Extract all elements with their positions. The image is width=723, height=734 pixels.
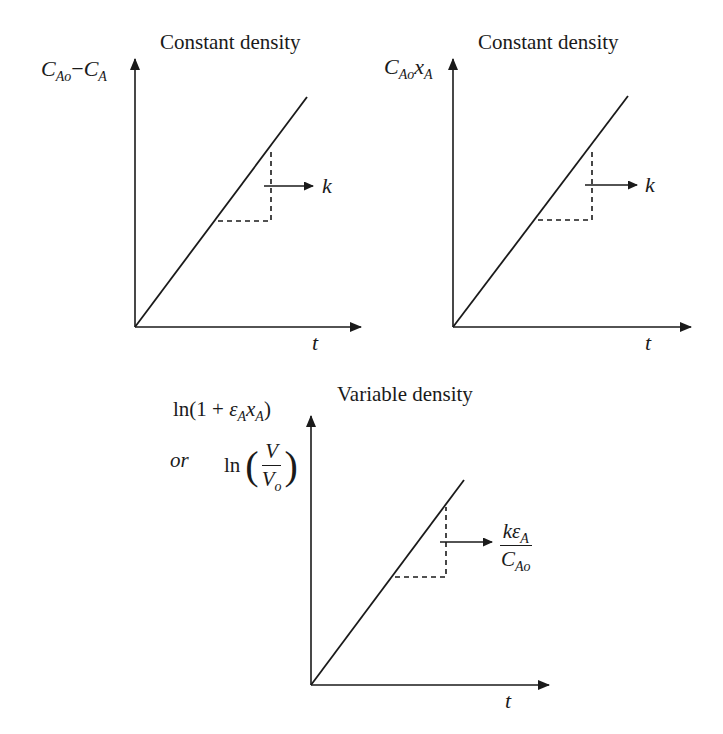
x-axis-label: t xyxy=(505,688,511,714)
slope-triangle xyxy=(218,150,271,221)
fraction-denominator: Vo xyxy=(259,466,285,491)
k-var: k xyxy=(503,519,512,543)
slope-label: k xyxy=(645,172,655,198)
y-axis-label: CAo−CA xyxy=(41,56,107,82)
right-paren: ) xyxy=(285,446,298,486)
ln-prefix: ln(1 + xyxy=(173,397,229,421)
y-label-c: C xyxy=(41,56,56,81)
y-axis-label: CAoxA xyxy=(384,54,433,80)
y-label-x: x xyxy=(414,54,424,79)
y-label-sub: Ao xyxy=(399,67,415,82)
x-sub: A xyxy=(255,409,264,424)
y-label-minus: − xyxy=(71,56,83,81)
panel-title: Variable density xyxy=(337,382,473,407)
panel-title: Constant density xyxy=(478,30,619,55)
y-axis-label-line1: ln(1 + εAxA) xyxy=(173,397,271,422)
volume-ratio: V Vo xyxy=(259,440,285,491)
data-line xyxy=(311,480,464,685)
x-axis-label: t xyxy=(312,330,318,356)
x-axis-label: t xyxy=(645,330,651,356)
y-axis-label-line2: ln ( V Vo ) xyxy=(224,440,298,491)
c-sub: Ao xyxy=(515,559,531,574)
y-label-sub: Ao xyxy=(56,69,72,84)
y-label-sub2: A xyxy=(98,69,107,84)
y-label-c2: C xyxy=(84,56,99,81)
slope-fraction: kεA CAo xyxy=(498,520,534,571)
v-sub: o xyxy=(275,479,282,494)
slope-label: kεA CAo xyxy=(498,520,534,571)
slope-numerator: kεA xyxy=(500,520,532,546)
panel-title: Constant density xyxy=(160,30,301,55)
ln-text: ln xyxy=(224,453,240,478)
fraction-numerator: V xyxy=(262,440,281,466)
v-den: V xyxy=(262,467,275,491)
slope-triangle xyxy=(538,150,592,220)
slope-label: k xyxy=(322,173,332,199)
c-var: C xyxy=(501,547,515,571)
left-paren: ( xyxy=(245,446,258,486)
epsilon-sub: A xyxy=(237,409,246,424)
data-line xyxy=(453,96,628,327)
x-var: x xyxy=(246,397,255,421)
ln-suffix: ) xyxy=(264,397,271,421)
epsilon-sub: A xyxy=(520,531,529,546)
y-label-sub2: A xyxy=(424,67,433,82)
data-line xyxy=(135,97,307,327)
y-label-c: C xyxy=(384,54,399,79)
or-label: or xyxy=(170,448,189,473)
figure: Constant density CAo−CA k t Constant den… xyxy=(0,0,723,734)
slope-denominator: CAo xyxy=(498,546,534,571)
slope-triangle xyxy=(395,507,446,577)
panel-constant-density-2-axes xyxy=(453,59,691,327)
plot-graphics xyxy=(0,0,723,734)
